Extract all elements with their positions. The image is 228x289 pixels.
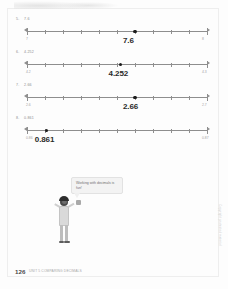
axis-tick [117,129,118,133]
problem-prompt: 2.66 [24,83,32,87]
axis-end-tick [27,28,28,35]
character-right-shoe [64,241,70,243]
plotted-point [133,30,136,33]
problem-label: 5. [16,17,19,21]
speech-bubble-text: Working with decimals is fun! [76,181,119,190]
answer-value: 2.66 [123,102,138,111]
plotted-point [133,96,136,99]
illustration-area: Working with decimals is fun! [0,165,228,255]
axis-left-label: 0.86 [26,136,33,140]
axis-end-tick [207,94,208,101]
problem-list: 5.7.6787.66.4.2524.24.34.2527.2.662.62.7… [0,17,228,149]
axis-tick [153,96,154,100]
problem-prompt: 7.6 [24,17,30,21]
axis-end-tick [207,61,208,68]
axis-tick [117,96,118,100]
character-right-leg [65,225,68,242]
axis-tick [189,63,190,67]
axis-tick [81,129,82,133]
axis-end-tick [27,61,28,68]
answer-value: 0.861 [35,135,55,144]
axis-right-label: 8 [202,37,204,41]
axis-tick [45,63,46,67]
side-margin-note: Copyright protected material [218,204,222,246]
axis-end-tick [207,127,208,134]
axis-tick [99,129,100,133]
axis-end-tick [207,28,208,35]
number-line: 78 [0,26,228,38]
problem-row: 7.2.662.62.72.66 [0,83,228,116]
problem-row: 5.7.6787.6 [0,17,228,50]
page-footer: 126 UNIT 5 COMPARING DECIMALS [0,266,228,282]
number-line: 2.62.7 [0,92,228,104]
scan-artifact-top-center [58,2,118,9]
axis-tick [153,30,154,34]
problem-row: 6.4.2524.24.34.252 [0,50,228,83]
answer-value: 4.252 [109,69,129,78]
axis-right-label: 4.3 [202,70,207,74]
axis-tick [171,30,172,34]
axis-tick [63,96,64,100]
speech-bubble: Working with decimals is fun! [71,177,123,194]
axis-tick [153,63,154,67]
axis-end-tick [27,94,28,101]
axis-tick [135,63,136,67]
axis-tick [117,30,118,34]
axis-tick [171,63,172,67]
axis-tick [189,30,190,34]
axis-tick [171,129,172,133]
axis-left-label: 4.2 [26,70,31,74]
axis-tick [99,63,100,67]
problem-label: 6. [16,50,19,54]
axis-tick [189,96,190,100]
axis-end-tick [27,127,28,134]
problem-label: 7. [16,83,19,87]
axis-tick [153,129,154,133]
problem-label: 8. [16,116,19,120]
axis-tick [99,96,100,100]
axis-tick [45,96,46,100]
axis-left-label: 7 [26,37,28,41]
axis-right-label: 2.7 [202,103,207,107]
axis-right-label: 0.87 [202,136,209,140]
axis-tick [117,63,118,67]
answer-value: 7.6 [123,36,134,45]
axis-tick [81,30,82,34]
problem-prompt: 4.252 [24,50,34,54]
axis-tick [189,129,190,133]
character-body [59,206,69,226]
problem-row: 8.0.8610.860.870.861 [0,116,228,149]
problem-prompt: 0.861 [24,116,34,120]
character-held-object [76,200,81,205]
axis-tick [63,63,64,67]
axis-tick [81,96,82,100]
footer-caption: UNIT 5 COMPARING DECIMALS [29,269,82,273]
axis-tick [171,96,172,100]
axis-tick [63,30,64,34]
axis-tick [45,30,46,34]
axis-tick [99,30,100,34]
axis-tick [81,63,82,67]
axis-left-label: 2.6 [26,103,31,107]
speech-bubble-tail [74,193,80,198]
worksheet-page: 5.7.6787.66.4.2524.24.34.2527.2.662.62.7… [0,0,228,289]
page-number: 126 [15,268,25,275]
axis-tick [63,129,64,133]
plotted-point [119,63,122,66]
plotted-point [45,129,48,132]
character-left-leg [60,225,63,242]
character-hair [59,196,69,201]
axis-tick [135,129,136,133]
